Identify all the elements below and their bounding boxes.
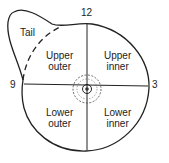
breast-quadrant-diagram [0, 0, 169, 163]
region-upper-outer-line1: Upper [46, 50, 73, 61]
region-lower-outer: Lower outer [46, 107, 73, 129]
clock-label-3: 3 [152, 79, 158, 90]
region-upper-inner-line2: inner [104, 61, 131, 72]
region-tail: Tail [20, 27, 35, 38]
region-lower-inner-line2: inner [104, 118, 131, 129]
region-lower-outer-line2: outer [46, 118, 73, 129]
clock-label-9: 9 [10, 79, 16, 90]
region-upper-outer-line2: outer [46, 61, 73, 72]
nipple-center [85, 87, 89, 91]
clock-label-12: 12 [81, 7, 92, 18]
region-lower-outer-line1: Lower [46, 107, 73, 118]
region-lower-inner-line1: Lower [104, 107, 131, 118]
region-upper-inner-line1: Upper [104, 50, 131, 61]
region-lower-inner: Lower inner [104, 107, 131, 129]
region-upper-inner: Upper inner [104, 50, 131, 72]
region-upper-outer: Upper outer [46, 50, 73, 72]
